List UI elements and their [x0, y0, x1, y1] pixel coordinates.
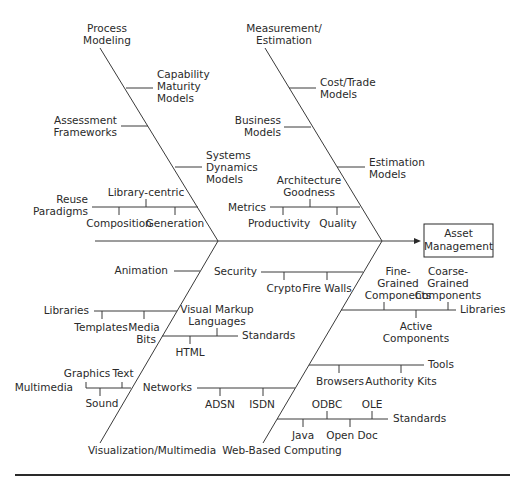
cause-label: Business	[235, 114, 281, 126]
sub-cause-label: Graphics	[64, 367, 110, 379]
sub-cause-label: Components	[383, 332, 449, 344]
cause-label: Standards	[393, 412, 446, 424]
sub-cause-label: HTML	[175, 346, 204, 358]
sub-cause-label: Browsers	[316, 375, 364, 387]
cause-label: Metrics	[228, 201, 266, 213]
category-web-based-computing: Web-Based Computing Security Crypto Fire…	[143, 241, 506, 456]
spine	[95, 238, 421, 244]
sub-cause-label: Fire Walls	[302, 282, 352, 294]
cause-label: Paradigms	[33, 205, 88, 217]
cause-label: Capability	[157, 68, 210, 80]
arrow-head-icon	[414, 238, 421, 244]
effect-box: Asset Management	[424, 224, 493, 257]
sub-cause-label: Coarse-	[428, 265, 468, 277]
category-process-modeling: Process Modeling Capability Maturity Mod…	[33, 22, 258, 241]
cause-label: Libraries	[44, 304, 89, 316]
sub-cause-label: Quality	[319, 217, 357, 229]
sub-cause-label: Goodness	[283, 186, 335, 198]
sub-cause-label: Active	[400, 320, 432, 332]
fishbone-diagram: Asset Management Process Modeling Capabi…	[0, 0, 525, 486]
sub-cause-label: Library-centric	[108, 186, 185, 198]
sub-cause-label: ISDN	[249, 398, 275, 410]
cause-label: Dynamics	[206, 161, 258, 173]
sub-cause-label: Open Doc	[326, 429, 378, 441]
cause-label: Models	[244, 126, 281, 138]
cause-label: Security	[214, 265, 257, 277]
cause-label: Frameworks	[53, 126, 117, 138]
cause-label: Estimation	[369, 156, 425, 168]
sub-cause-label: Generation	[146, 217, 205, 229]
cause-label: Reuse	[56, 193, 88, 205]
cause-label: Systems	[206, 149, 251, 161]
category-label: Process	[87, 22, 127, 34]
cause-label: Animation	[114, 264, 168, 276]
sub-cause-label: OLE	[362, 398, 383, 410]
cause-label: Visual Markup	[180, 303, 254, 315]
sub-cause-label: Text	[111, 367, 133, 379]
sub-cause-label: Architecture	[277, 174, 341, 186]
sub-cause-label: ODBC	[312, 398, 343, 410]
effect-label-1: Asset	[444, 227, 473, 239]
category-label: Measurement/	[246, 22, 322, 34]
sub-cause-label: Authority Kits	[365, 375, 436, 387]
cause-label: Models	[369, 168, 406, 180]
sub-cause-label: Productivity	[248, 217, 310, 229]
cause-label: Standards	[242, 329, 295, 341]
sub-cause-label: Templates	[73, 321, 127, 333]
cause-label: Libraries	[460, 303, 505, 315]
sub-cause-label: Crypto	[266, 282, 301, 294]
cause-label: Models	[206, 173, 243, 185]
category-label: Estimation	[256, 34, 312, 46]
sub-cause-label: Bits	[136, 333, 156, 345]
sub-cause-label: Grained	[377, 277, 419, 289]
sub-cause-label: Sound	[85, 397, 118, 409]
category-label: Modeling	[83, 34, 131, 46]
cause-label: Cost/Trade	[320, 76, 376, 88]
sub-cause-label: Java	[291, 429, 314, 441]
cause-label: Maturity	[157, 80, 201, 92]
cause-label: Models	[320, 88, 357, 100]
cause-label: Tools	[427, 358, 454, 370]
effect-label-2: Management	[424, 240, 493, 252]
sub-cause-label: Composition	[86, 217, 152, 229]
cause-label: Multimedia	[15, 381, 73, 393]
sub-cause-label: Grained	[427, 277, 469, 289]
sub-cause-label: Components	[415, 289, 481, 301]
sub-cause-label: ADSN	[205, 398, 235, 410]
cause-label: Networks	[143, 381, 192, 393]
sub-cause-label: Fine-	[385, 265, 410, 277]
category-label: Visualization/Multimedia	[88, 444, 216, 456]
category-label: Web-Based Computing	[222, 444, 342, 456]
cause-label: Languages	[188, 315, 245, 327]
sub-cause-label: Media	[128, 321, 160, 333]
category-measurement-estimation: Measurement/ Estimation Cost/Trade Model…	[228, 22, 425, 241]
cause-label: Assessment	[54, 114, 117, 126]
cause-label: Models	[157, 92, 194, 104]
